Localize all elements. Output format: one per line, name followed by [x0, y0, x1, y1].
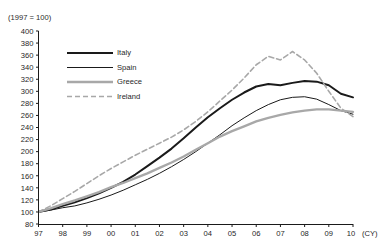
y-axis-tick-label: 100	[21, 208, 34, 217]
y-axis-tick-label: 200	[21, 147, 34, 156]
y-axis-tick-label: 340	[21, 63, 34, 72]
y-axis-tick-label: 320	[21, 75, 34, 84]
data-series-group	[39, 52, 354, 212]
x-axis-tick-label: 03	[179, 229, 187, 238]
x-axis-tick-label: 08	[300, 229, 308, 238]
y-axis-tick-label: 160	[21, 172, 34, 181]
y-axis-tick-label: 140	[21, 184, 34, 193]
x-axis-tick-label: 98	[58, 229, 66, 238]
y-axis-tick-label: 280	[21, 99, 34, 108]
legend-label-spain: Spain	[117, 63, 136, 72]
x-axis-tick-label: 07	[276, 229, 284, 238]
line-chart-plot: 8010012014016018020022024026028030032034…	[0, 0, 383, 247]
x-axis-tick-label: 09	[325, 229, 333, 238]
series-line-italy	[39, 81, 354, 212]
y-axis-tick-label: 80	[25, 220, 33, 229]
x-axis-tick-label: 05	[228, 229, 236, 238]
x-axis-tick-label: 97	[34, 229, 42, 238]
y-axis-tick-label: 360	[21, 51, 34, 60]
series-line-ireland	[39, 52, 354, 212]
x-axis: 9798990001020304050607080910(CY)	[34, 224, 378, 238]
x-axis-tick-label: 06	[252, 229, 260, 238]
y-axis: 8010012014016018020022024026028030032034…	[21, 27, 39, 229]
y-axis-tick-label: 240	[21, 123, 34, 132]
y-axis-tick-label: 260	[21, 111, 34, 120]
x-axis-tick-label: 10	[347, 229, 355, 238]
y-axis-tick-label: 120	[21, 196, 34, 205]
chart-container: (1997 = 100) 801001201401601802002202402…	[0, 0, 383, 247]
series-line-spain	[39, 97, 354, 212]
legend-label-italy: Italy	[117, 48, 131, 57]
y-axis-tick-label: 220	[21, 135, 34, 144]
x-axis-tick-label: 99	[83, 229, 91, 238]
x-axis-tick-label: 00	[107, 229, 115, 238]
y-axis-tick-label: 380	[21, 39, 34, 48]
x-axis-tick-label: 04	[204, 229, 212, 238]
y-axis-tick-label: 180	[21, 159, 34, 168]
chart-legend: ItalySpainGreeceIreland	[67, 48, 142, 101]
series-line-greece	[39, 109, 354, 212]
y-axis-tick-label: 300	[21, 87, 34, 96]
y-axis-tick-label: 400	[21, 27, 34, 36]
x-axis-tick-label: 01	[131, 229, 139, 238]
x-axis-tick-label: 02	[155, 229, 163, 238]
x-axis-unit-label: (CY)	[362, 229, 378, 238]
legend-label-greece: Greece	[117, 77, 142, 86]
legend-label-ireland: Ireland	[117, 92, 140, 101]
